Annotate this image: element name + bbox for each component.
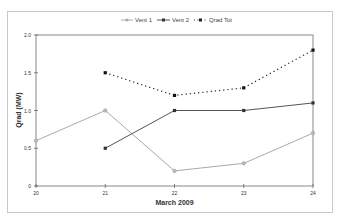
legend-item-qrad-tot: Qrad Tot — [194, 17, 232, 23]
square-marker-icon — [173, 109, 176, 112]
y-tick-label: 0 — [28, 183, 31, 189]
series-qrad-tot — [104, 49, 315, 98]
legend-item-vent-2: Vent 2 — [157, 17, 190, 23]
circle-marker-icon — [311, 131, 315, 135]
square-marker-icon — [311, 49, 314, 52]
y-tick-label: 1.5 — [24, 70, 31, 76]
circle-marker-icon — [103, 109, 107, 113]
square-marker-icon — [162, 19, 165, 22]
line-chart: Vent 1 Vent 2 Qrad Tot 0 0.5 1.0 1.5 2.0… — [0, 0, 341, 219]
series-vent-1 — [34, 109, 315, 173]
x-tick-label: 20 — [33, 190, 39, 196]
square-marker-icon — [104, 147, 107, 150]
y-tick-label: 1.0 — [24, 108, 31, 114]
square-marker-icon — [242, 86, 245, 89]
x-tick-label: 22 — [172, 190, 178, 196]
y-axis: 0 0.5 1.0 1.5 2.0 Qrad (MW) — [15, 32, 38, 189]
x-tick-label: 24 — [310, 190, 316, 196]
square-marker-icon — [173, 94, 176, 97]
x-axis: 20 21 22 23 24 March 2009 — [33, 184, 316, 206]
series-layer — [34, 49, 315, 173]
square-marker-icon — [199, 19, 202, 22]
series-vent-2 — [104, 101, 315, 149]
legend-label: Vent 2 — [172, 17, 190, 23]
x-tick-label: 21 — [102, 190, 108, 196]
x-axis-title: March 2009 — [155, 199, 193, 206]
y-tick-label: 0.5 — [24, 145, 31, 151]
square-marker-icon — [104, 71, 107, 74]
x-tick-label: 23 — [241, 190, 247, 196]
legend-item-vent-1: Vent 1 — [121, 17, 153, 23]
y-tick-label: 2.0 — [24, 32, 31, 38]
legend: Vent 1 Vent 2 Qrad Tot — [121, 17, 232, 23]
circle-marker-icon — [34, 139, 38, 143]
square-marker-icon — [311, 101, 314, 104]
legend-label: Vent 1 — [135, 17, 153, 23]
circle-marker-icon — [242, 162, 246, 166]
legend-label: Qrad Tot — [209, 17, 232, 23]
circle-marker-icon — [125, 18, 128, 21]
square-marker-icon — [242, 109, 245, 112]
y-axis-title: Qrad (MW) — [15, 92, 23, 127]
circle-marker-icon — [173, 169, 177, 173]
